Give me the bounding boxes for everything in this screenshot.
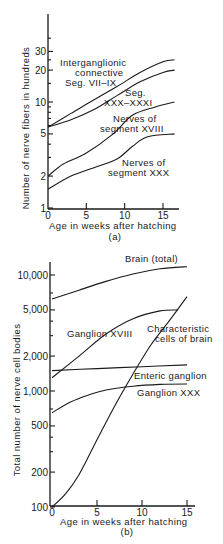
label-ganglion-xxx: Ganglion XXX — [137, 387, 201, 398]
figure: Number of nerve fibers in hundreds 12510… — [0, 0, 223, 544]
y-tick-label: 100 — [31, 502, 48, 513]
panel-a-chart: Number of nerve fibers in hundreds 12510… — [20, 14, 179, 242]
y-tick-label: 5 — [40, 128, 46, 139]
y-tick-label: 2,000 — [23, 351, 48, 362]
y-tick-label: 20 — [35, 65, 47, 76]
y-tick-label: 30 — [35, 46, 47, 57]
label-seg-vii-ix: Seg. VII–IX — [65, 77, 117, 88]
x-tick-label: 0 — [49, 507, 55, 518]
label-segment-xxx: segment XXX — [108, 167, 170, 178]
label-cells-of-brain: cells of brain — [155, 333, 213, 344]
y-tick-label: 10,000 — [17, 270, 48, 281]
y-tick-label: 200 — [31, 467, 48, 478]
y-tick-label: 10 — [35, 97, 47, 108]
label-seg-xxx-xxxi: XXX–XXXI — [104, 97, 152, 108]
y-tick-label: 2 — [40, 171, 46, 182]
y-tick-label: 500 — [31, 420, 48, 431]
panel-b-chart: Total number of nerve cell bodies 100200… — [11, 253, 213, 537]
label-brain-total: Brain (total) — [125, 253, 178, 264]
panel-a-y-axis-label: Number of nerve fibers in hundreds — [20, 47, 31, 210]
panel-a-x-axis-label: Age in weeks after hatching — [49, 220, 177, 231]
panel-b-y-axis-label: Total number of nerve cell bodies — [11, 324, 22, 477]
label-ganglion-xviii: Ganglion XVIII — [67, 328, 132, 339]
panel-a-caption: (a) — [109, 231, 122, 242]
y-tick-label: 1,000 — [23, 386, 48, 397]
panel-a-x-ticks: 051015 — [45, 203, 169, 221]
label-enteric-ganglion: Enteric ganglion — [134, 370, 207, 381]
label-segment-xviii: segment XVIII — [100, 123, 164, 134]
y-tick-label: 5,000 — [23, 304, 48, 315]
series-curve — [52, 267, 187, 299]
panel-b-caption: (b) — [121, 526, 134, 537]
